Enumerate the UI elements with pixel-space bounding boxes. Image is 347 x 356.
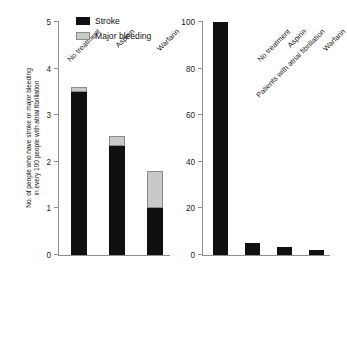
bar-left-warfarin[interactable] xyxy=(147,171,163,255)
bar-segment-stroke xyxy=(277,247,292,255)
y-tick-right-60: 60 xyxy=(198,114,203,115)
y-ticklabel-right-100: 100 xyxy=(181,18,195,27)
y-ticklabel-left-1: 1 xyxy=(46,204,51,213)
y-tick-right-0: 0 xyxy=(198,254,203,255)
y-tick-left-3: 3 xyxy=(54,114,59,115)
legend-label-stroke: Stroke xyxy=(95,16,120,26)
bar-segment-stroke xyxy=(309,250,324,255)
y-ticklabel-right-80: 80 xyxy=(186,64,195,73)
y-axis-label-left: No. of people who have stroke or major b… xyxy=(18,18,48,258)
bar-right-no-treatment[interactable] xyxy=(245,243,260,255)
y-tick-left-0: 0 xyxy=(54,254,59,255)
bar-left-no-treatment[interactable] xyxy=(71,87,87,255)
x-ticklabel-right-no-treatment: No treatment xyxy=(256,27,293,64)
plot-area-right: 0 20 40 60 80 100 xyxy=(202,22,330,256)
legend-swatch-major-bleeding-icon xyxy=(76,32,90,40)
y-ticklabel-right-40: 40 xyxy=(186,157,195,166)
plot-area-left: 0 1 2 3 4 5 xyxy=(58,22,170,256)
y-tick-right-80: 80 xyxy=(198,68,203,69)
y-tick-left-4: 4 xyxy=(54,68,59,69)
y-ticklabel-right-0: 0 xyxy=(190,251,195,260)
bar-segment-stroke xyxy=(147,208,163,255)
bar-segment-stroke xyxy=(245,243,260,255)
y-tick-right-100: 100 xyxy=(198,21,203,22)
y-ticklabel-left-5: 5 xyxy=(46,18,51,27)
legend: Stroke Major bleeding xyxy=(76,16,151,46)
legend-label-major-bleeding: Major bleeding xyxy=(95,31,151,41)
y-tick-left-1: 1 xyxy=(54,207,59,208)
y-axis-label-line2: in every 100 people with atrial fibrilla… xyxy=(33,81,40,196)
y-tick-left-2: 2 xyxy=(54,161,59,162)
y-ticklabel-left-2: 2 xyxy=(46,157,51,166)
x-ticklabel-left-warfarin: Warfarin xyxy=(155,27,181,53)
bar-segment-major-bleeding xyxy=(147,171,163,208)
y-ticklabel-right-60: 60 xyxy=(186,111,195,120)
chart-panel-right: 0 20 40 60 80 100 xyxy=(180,0,344,356)
y-ticklabel-left-4: 4 xyxy=(46,64,51,73)
y-ticklabel-left-3: 3 xyxy=(46,111,51,120)
bar-right-warfarin[interactable] xyxy=(309,250,324,255)
bar-segment-major-bleeding xyxy=(109,136,125,145)
y-ticklabel-right-20: 20 xyxy=(186,204,195,213)
y-tick-right-20: 20 xyxy=(198,207,203,208)
chart-panel-left: No. of people who have stroke or major b… xyxy=(0,0,180,356)
bar-segment-stroke xyxy=(213,22,228,255)
y-axis-label-line1: No. of people who have stroke or major b… xyxy=(25,68,32,208)
legend-swatch-stroke-icon xyxy=(76,17,90,25)
bar-segment-stroke xyxy=(71,92,87,255)
legend-item-stroke: Stroke xyxy=(76,16,151,26)
bar-segment-stroke xyxy=(109,146,125,256)
bar-left-aspirin[interactable] xyxy=(109,136,125,255)
bar-right-aspirin[interactable] xyxy=(277,247,292,255)
y-tick-right-40: 40 xyxy=(198,161,203,162)
y-ticklabel-left-0: 0 xyxy=(46,251,51,260)
y-tick-left-5: 5 xyxy=(54,21,59,22)
legend-item-major-bleeding: Major bleeding xyxy=(76,31,151,41)
bar-right-patients-with-atrial-fibrillation[interactable] xyxy=(213,22,228,255)
